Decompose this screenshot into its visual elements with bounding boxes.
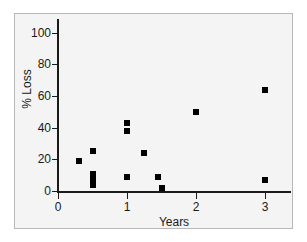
data-point-marker <box>124 120 130 126</box>
plot-area: 020406080100 0123 % Loss Years <box>15 14 294 230</box>
data-point-marker <box>124 174 130 180</box>
data-point-marker <box>159 185 165 191</box>
y-tick-label: 0 <box>15 185 51 197</box>
data-point-marker <box>262 177 268 183</box>
y-tick-label: 20 <box>15 153 51 165</box>
scatter-plot-figure: 020406080100 0123 % Loss Years <box>0 0 307 242</box>
data-point-marker <box>90 171 96 177</box>
x-tick-label: 3 <box>254 201 276 213</box>
data-point-marker <box>76 158 82 164</box>
x-tick-mark <box>58 193 59 199</box>
y-tick-mark <box>52 159 58 160</box>
data-point-marker <box>90 148 96 154</box>
y-tick-mark <box>52 33 58 34</box>
data-point-marker <box>124 128 130 134</box>
data-point-marker <box>193 109 199 115</box>
x-axis-line <box>57 191 291 193</box>
y-tick-label: 100 <box>15 27 51 39</box>
y-tick-mark <box>52 128 58 129</box>
data-point-marker <box>90 182 96 188</box>
y-axis-line <box>57 19 59 193</box>
data-point-marker <box>262 87 268 93</box>
data-point-marker <box>141 150 147 156</box>
x-tick-mark <box>127 193 128 199</box>
x-tick-label: 1 <box>116 201 138 213</box>
y-tick-mark <box>52 96 58 97</box>
x-tick-label: 0 <box>47 201 69 213</box>
y-tick-mark <box>52 191 58 192</box>
x-tick-label: 2 <box>185 201 207 213</box>
x-axis-title: Years <box>57 215 291 229</box>
x-tick-mark <box>196 193 197 199</box>
chart-panel: 020406080100 0123 % Loss Years <box>14 13 293 229</box>
y-tick-label: 40 <box>15 122 51 134</box>
x-tick-mark <box>265 193 266 199</box>
data-point-marker <box>155 174 161 180</box>
y-axis-title: % Loss <box>20 59 34 119</box>
y-tick-mark <box>52 64 58 65</box>
